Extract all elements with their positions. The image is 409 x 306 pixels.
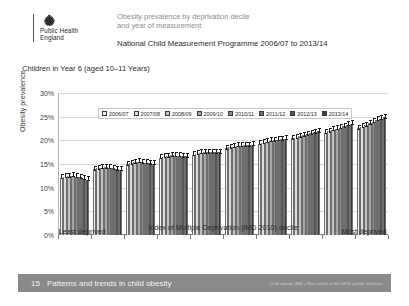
legend-item[interactable]: 2006/07	[102, 111, 129, 117]
error-bar	[73, 172, 74, 177]
error-bar	[139, 158, 140, 163]
error-bar	[296, 134, 297, 139]
error-bar	[348, 121, 349, 126]
error-bar	[267, 138, 268, 143]
legend-label: 2010/11	[235, 111, 254, 117]
error-bar	[94, 166, 95, 171]
error-bar	[127, 161, 128, 166]
error-bar	[274, 137, 275, 142]
x-axis-tick	[256, 235, 257, 239]
bar-group	[355, 93, 388, 235]
error-bar	[183, 153, 184, 158]
error-bar	[340, 124, 341, 129]
error-bar	[373, 118, 374, 123]
error-bar	[311, 130, 312, 135]
legend-swatch	[322, 111, 327, 116]
error-bar	[168, 153, 169, 158]
bar[interactable]	[350, 124, 354, 235]
error-bar	[80, 174, 81, 179]
legend-swatch	[228, 111, 233, 116]
legend-swatch	[259, 111, 264, 116]
bar[interactable]	[383, 117, 387, 235]
error-bar	[337, 125, 338, 130]
logo-line-1: Public Health	[40, 27, 89, 34]
error-bar	[234, 143, 235, 148]
error-bar	[208, 149, 209, 154]
error-bar	[212, 149, 213, 154]
error-bar	[377, 116, 378, 121]
chart-title-line-2: and year of measurement	[117, 21, 393, 30]
legend-label: 2006/07	[109, 111, 129, 117]
error-bar	[160, 154, 161, 159]
legend-item[interactable]: 2010/11	[228, 111, 254, 117]
bar[interactable]	[251, 145, 255, 235]
page-footer: 15 Patterns and trends in child obesity …	[18, 274, 391, 292]
royal-crest-icon	[42, 14, 56, 26]
legend-item[interactable]: 2013/14	[322, 111, 349, 117]
error-bar	[278, 136, 279, 141]
legend-item[interactable]: 2012/13	[290, 111, 317, 117]
error-bar	[187, 153, 188, 158]
error-bar	[325, 129, 326, 134]
error-bar	[253, 141, 254, 146]
error-bar	[333, 126, 334, 131]
error-bar	[121, 166, 122, 171]
error-bar	[98, 165, 99, 170]
error-bar	[113, 165, 114, 170]
legend-item[interactable]: 2007/08	[134, 111, 161, 117]
x-axis-tick	[190, 235, 191, 239]
y-axis-tick-label: 5%	[44, 208, 54, 215]
error-bar	[175, 152, 176, 157]
legend-item[interactable]: 2011/12	[259, 111, 285, 117]
error-bar	[102, 164, 103, 169]
error-bar	[315, 129, 316, 134]
legend-label: 2008/09	[172, 111, 192, 117]
error-bar	[304, 132, 305, 137]
error-bar	[117, 166, 118, 171]
report-header: Public Health England Obesity prevalence…	[33, 12, 393, 62]
error-bar	[193, 151, 194, 156]
error-bar	[76, 173, 77, 178]
error-bar	[154, 160, 155, 165]
error-bar	[329, 128, 330, 133]
error-bar	[352, 120, 353, 125]
legend-item[interactable]: 2008/09	[165, 111, 192, 117]
panel-label: Children in Year 6 (aged 10–11 Years)	[22, 64, 150, 73]
legend-swatch	[102, 111, 107, 116]
error-bar	[205, 149, 206, 154]
title-block: Obesity prevalence by deprivation decile…	[117, 12, 393, 49]
document-page: Public Health England Obesity prevalence…	[0, 0, 409, 306]
error-bar	[370, 120, 371, 125]
bar[interactable]	[284, 139, 288, 235]
legend-label: 2009/10	[204, 111, 224, 117]
error-bar	[84, 175, 85, 180]
error-bar	[197, 150, 198, 155]
chart-title-line-1: Obesity prevalence by deprivation decile	[117, 12, 393, 21]
error-bar	[88, 176, 89, 181]
x-axis-right-caption: Most deprived	[338, 227, 390, 236]
legend-swatch	[197, 111, 202, 116]
error-bar	[282, 136, 283, 141]
error-bar	[69, 173, 70, 178]
y-axis-tick-label: 25%	[40, 113, 54, 120]
chart-legend[interactable]: 2006/072007/082008/092009/102010/112011/…	[98, 108, 352, 119]
x-axis-left-caption: Least deprived	[56, 227, 108, 236]
x-axis-tick	[157, 235, 158, 239]
error-bar	[220, 149, 221, 154]
error-bar	[292, 135, 293, 140]
bar[interactable]	[317, 131, 321, 235]
y-axis-tick-label: 30%	[40, 90, 54, 97]
error-bar	[146, 159, 147, 164]
y-axis-tick-label: 15%	[40, 161, 54, 168]
error-bar	[319, 128, 320, 133]
error-bar	[131, 160, 132, 165]
error-bar	[241, 142, 242, 147]
error-bar	[366, 122, 367, 127]
legend-label: 2012/13	[297, 111, 317, 117]
x-axis-tick	[223, 235, 224, 239]
error-bar	[61, 174, 62, 179]
error-bar	[245, 142, 246, 147]
y-axis-tick-label: 0%	[44, 232, 54, 239]
legend-item[interactable]: 2009/10	[197, 111, 224, 117]
error-bar	[179, 152, 180, 157]
